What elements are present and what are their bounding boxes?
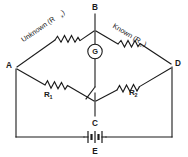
switch-blade-open (86, 87, 95, 99)
wire-rx-to-b (80, 31, 94, 41)
rs-label-text: Known (R (111, 22, 142, 45)
battery-symbol (84, 131, 106, 143)
resistor-symbol-rx (55, 36, 80, 43)
wire-a-to-rx (17, 40, 55, 67)
arm-known-rs: Known (R s ) (96, 22, 171, 64)
battery-label-e: E (92, 147, 98, 156)
r1-label-subscript: 1 (50, 94, 53, 100)
rx-label-text: Unknown (R (20, 15, 57, 44)
galvanometer-label: G (92, 47, 98, 56)
wire-c-to-r2 (96, 90, 117, 101)
node-label-b: B (92, 3, 98, 12)
wheatstone-bridge-diagram: Unknown (R x ) Known (R s ) R 1 (0, 0, 188, 157)
wire-a-to-r1 (17, 69, 45, 85)
arm-r1: R 1 (17, 69, 94, 101)
resistor-symbol-r1 (45, 81, 68, 90)
rs-label-paren: ) (142, 41, 148, 49)
r2-label-subscript: 2 (135, 92, 138, 98)
arm-r2: R 2 (96, 68, 171, 101)
circuit-schematic-canvas: Unknown (R x ) Known (R s ) R 1 (0, 0, 188, 157)
wire-r2-to-d (140, 68, 172, 87)
wire-b-to-rs (96, 31, 118, 44)
node-label-a: A (6, 61, 12, 70)
label-group-rs: Known (R s ) (111, 22, 148, 49)
node-labels: A B C D (6, 3, 181, 128)
arm-unknown-rx: Unknown (R x ) (17, 9, 94, 67)
supply-rail: E (16, 67, 172, 156)
node-label-c: C (92, 119, 98, 128)
node-label-d: D (175, 59, 181, 68)
